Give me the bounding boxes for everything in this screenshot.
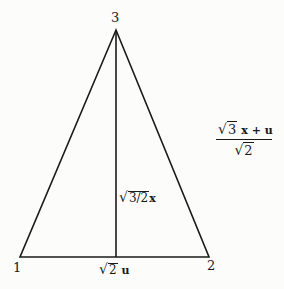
vertex-label-2: 2 <box>207 259 215 272</box>
sqrt-symbol: √ <box>119 189 128 205</box>
numerator-expression: x + u <box>241 124 272 137</box>
base-label: √2 u <box>99 262 129 276</box>
altitude-radicand: 3/2 <box>128 191 149 204</box>
altitude-label: √3/2x <box>119 190 156 204</box>
fraction-denominator: √2 <box>216 140 272 158</box>
fraction-numerator: √3 x + u <box>216 121 272 140</box>
base-radicand: 2 <box>108 263 118 276</box>
sqrt-symbol: √ <box>234 142 243 158</box>
vertex-label-1: 1 <box>13 261 21 274</box>
triangle <box>20 30 209 257</box>
vertex-label-3: 3 <box>111 11 119 24</box>
sqrt-symbol: √ <box>218 121 227 137</box>
fraction-label: √3 x + u √2 <box>216 121 272 158</box>
numerator-radicand: 3 <box>227 121 237 137</box>
base-variable: u <box>121 264 129 277</box>
altitude-variable: x <box>149 192 156 205</box>
sqrt-symbol: √ <box>99 261 108 277</box>
denominator-radicand: 2 <box>243 142 253 158</box>
